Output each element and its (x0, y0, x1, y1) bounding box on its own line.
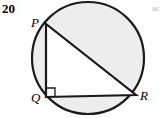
worksheet-figure-page: 20 P Q R ac (0, 0, 167, 118)
vertex-label-p: P (31, 16, 39, 29)
vertex-label-q: Q (31, 91, 40, 104)
cropped-margin-text: ac (152, 3, 167, 33)
vertex-label-r: R (140, 89, 148, 102)
